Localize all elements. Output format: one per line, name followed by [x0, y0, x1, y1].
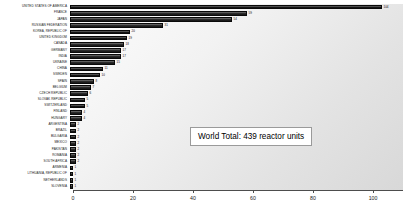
- category-label: SOUTH AFRICA: [0, 160, 70, 164]
- bar: [70, 17, 232, 22]
- bar-value-label: 11: [105, 67, 108, 70]
- x-tick-mark: [193, 190, 194, 193]
- bar: [70, 178, 73, 183]
- bar-value-label: 20: [132, 30, 135, 33]
- category-label: SWEDEN: [0, 73, 70, 77]
- category-label: RUSSIAN FEDERATION: [0, 24, 70, 28]
- bar: [70, 116, 82, 121]
- x-tick-label: 100: [369, 195, 378, 201]
- bar-value-label: 54: [234, 18, 237, 21]
- category-label: MEXICO: [0, 141, 70, 145]
- x-tick-mark: [73, 190, 74, 193]
- category-label: JAPAN: [0, 18, 70, 22]
- x-tick-label: 0: [72, 195, 75, 201]
- bar-value-label: 1: [75, 173, 77, 176]
- bar-value-label: 15: [117, 61, 120, 64]
- bar-track: 1: [70, 183, 407, 189]
- x-tick-mark: [373, 190, 374, 193]
- bar-value-label: 59: [249, 12, 252, 15]
- x-tick-label: 80: [310, 195, 316, 201]
- world-total-annotation: World Total: 439 reactor units: [190, 127, 312, 146]
- bar: [70, 85, 91, 90]
- bar: [70, 110, 82, 115]
- bar-value-label: 4: [84, 117, 86, 120]
- bar-rows: UNITED STATES OF AMERICA104FRANCE59JAPAN…: [0, 4, 407, 190]
- bar: [70, 67, 103, 72]
- bar: [70, 147, 76, 152]
- category-label: LITHUANIA, REPUBLIC OF: [0, 172, 70, 176]
- category-label: ARGENTINA: [0, 123, 70, 127]
- bar: [70, 36, 127, 41]
- category-label: BELGIUM: [0, 86, 70, 90]
- x-axis-line: [73, 190, 403, 191]
- bar: [70, 73, 100, 78]
- category-label: CHINA: [0, 67, 70, 71]
- category-label: CZECH REPUBLIC: [0, 92, 70, 96]
- bar: [70, 23, 163, 28]
- bar: [70, 129, 76, 134]
- bar-value-label: 104: [384, 6, 389, 9]
- bar: [70, 153, 76, 158]
- category-label: HUNGARY: [0, 117, 70, 121]
- bar: [70, 79, 94, 84]
- category-label: SLOVENIA: [0, 185, 70, 189]
- category-label: BULGARIA: [0, 135, 70, 139]
- bar-value-label: 2: [78, 154, 80, 157]
- category-label: ROMANIA: [0, 154, 70, 158]
- category-label: FRANCE: [0, 11, 70, 15]
- bar-value-label: 1: [75, 166, 77, 169]
- x-tick-label: 20: [130, 195, 136, 201]
- bar-value-label: 7: [93, 86, 95, 89]
- bar: [70, 11, 247, 16]
- category-label: UNITED KINGDOM: [0, 36, 70, 40]
- bar-row: SLOVENIA1: [0, 183, 407, 189]
- category-label: SPAIN: [0, 80, 70, 84]
- category-label: FINLAND: [0, 110, 70, 114]
- x-tick-mark: [253, 190, 254, 193]
- bar: [70, 91, 88, 96]
- category-label: UNITED STATES OF AMERICA: [0, 5, 70, 9]
- category-label: SLOVAK REPUBLIC: [0, 98, 70, 102]
- bar: [70, 5, 382, 10]
- bar-value-label: 1: [75, 185, 77, 188]
- bar-value-label: 2: [78, 129, 80, 132]
- bar: [70, 122, 76, 127]
- bar: [70, 98, 85, 103]
- bar: [70, 172, 73, 177]
- bar: [70, 30, 130, 35]
- category-label: BRAZIL: [0, 129, 70, 133]
- bar-value-label: 2: [78, 142, 80, 145]
- category-label: NETHERLANDS: [0, 179, 70, 183]
- bar-value-label: 18: [126, 43, 129, 46]
- bar: [70, 54, 121, 59]
- bar: [70, 42, 124, 47]
- bar: [70, 48, 121, 53]
- bar-value-label: 5: [87, 105, 89, 108]
- x-tick-label: 60: [250, 195, 256, 201]
- bar: [70, 135, 76, 140]
- category-label: PAKISTAN: [0, 148, 70, 152]
- category-label: UKRAINE: [0, 61, 70, 65]
- category-label: CANADA: [0, 42, 70, 46]
- category-label: SWITZERLAND: [0, 104, 70, 108]
- bar-value-label: 2: [78, 123, 80, 126]
- x-tick-label: 40: [190, 195, 196, 201]
- bar-value-label: 6: [90, 92, 92, 95]
- category-label: INDIA: [0, 55, 70, 59]
- bar-chart: UNITED STATES OF AMERICA104FRANCE59JAPAN…: [0, 0, 407, 213]
- bar-value-label: 8: [96, 80, 98, 83]
- bar-value-label: 17: [123, 49, 126, 52]
- bar: [70, 104, 85, 109]
- bar-value-label: 19: [129, 37, 132, 40]
- category-label: KOREA, REPUBLIC OF: [0, 30, 70, 34]
- bar: [70, 184, 73, 189]
- category-label: ARMENIA: [0, 166, 70, 170]
- x-tick-mark: [313, 190, 314, 193]
- bar-value-label: 5: [87, 98, 89, 101]
- bar-value-label: 4: [84, 111, 86, 114]
- bar-value-label: 2: [78, 148, 80, 151]
- bar-value-label: 2: [78, 136, 80, 139]
- bar: [70, 166, 73, 171]
- bar-value-label: 10: [102, 74, 105, 77]
- bar-value-label: 2: [78, 160, 80, 163]
